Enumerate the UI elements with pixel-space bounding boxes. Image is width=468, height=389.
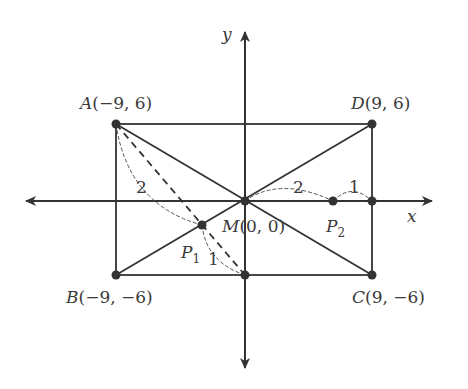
point-d	[368, 120, 377, 129]
point-p1	[198, 221, 207, 230]
point-a	[112, 120, 121, 129]
x-axis-label: x	[407, 206, 417, 226]
diagram-svg: x y A(−9, 6) D(9, 6) B(−9, −6) C(9, −6) …	[0, 0, 468, 389]
y-axis-label: y	[221, 24, 232, 44]
coordinate-diagram: x y A(−9, 6) D(9, 6) B(−9, −6) C(9, −6) …	[0, 0, 468, 389]
label-d: D(9, 6)	[350, 93, 410, 113]
ratio-left-1: 1	[208, 249, 219, 269]
point-p2	[329, 197, 338, 206]
label-a: A(−9, 6)	[78, 93, 152, 113]
point-b	[112, 271, 121, 280]
ratio-right-1: 1	[349, 177, 360, 197]
ratio-right-2: 2	[293, 177, 304, 197]
label-c: C(9, −6)	[352, 287, 425, 307]
label-b: B(−9, −6)	[65, 287, 153, 307]
label-p2: P2	[325, 216, 345, 240]
point-y-bottom	[241, 271, 250, 280]
label-p1: P1	[180, 242, 200, 266]
ratio-left-2: 2	[136, 177, 147, 197]
point-c	[368, 271, 377, 280]
point-m	[241, 197, 250, 206]
label-m: M(0, 0)	[221, 216, 285, 236]
point-x-right	[368, 197, 377, 206]
